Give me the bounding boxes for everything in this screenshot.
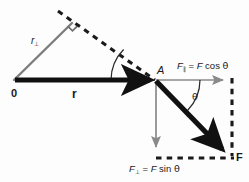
f-parallel-label: F∥ = F cos θ — [177, 61, 228, 73]
f-parallel-rhs-fn: cos — [202, 60, 222, 71]
origin-label: 0 — [11, 88, 17, 99]
f-perp-rhs-fn: sin — [156, 163, 173, 174]
f-parallel-rhs-theta: θ — [223, 60, 229, 71]
line-of-action-dashed — [58, 11, 155, 80]
force-vector-label: F — [236, 152, 243, 163]
r-vector-label: r — [72, 88, 77, 100]
right-angle-marker — [68, 26, 77, 31]
f-perp-rhs-theta: θ — [174, 163, 180, 174]
r-perp-lever-line — [14, 23, 72, 80]
angle-arc-theta-1 — [111, 50, 124, 81]
figure-canvas: r⊥ 0 r θ A F∥ = F cos θ θ F F⊥ = F sin θ — [0, 0, 249, 182]
point-a-label: A — [157, 65, 164, 76]
f-perp-equals: = — [140, 163, 151, 174]
force-vector-arrow — [156, 81, 222, 149]
vector-diagram-svg — [0, 0, 249, 182]
theta-2-label: θ — [192, 92, 198, 102]
r-perp-label: r⊥ — [31, 36, 39, 47]
theta-1-label: θ — [125, 67, 131, 77]
f-perp-label: F⊥ = F sin θ — [129, 164, 180, 176]
r-perp-label-sub: ⊥ — [34, 40, 39, 47]
f-parallel-equals: = — [186, 60, 197, 71]
